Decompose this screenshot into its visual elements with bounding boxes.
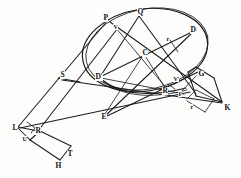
point-label-U: U bbox=[22, 136, 27, 142]
point-label-L: L bbox=[12, 124, 18, 132]
point-label-S: S bbox=[60, 71, 65, 79]
point-label-r-upper: r bbox=[166, 36, 169, 42]
lower-left-quadrilateral bbox=[18, 128, 71, 160]
point-label-K: K bbox=[224, 104, 230, 112]
point-label-T: T bbox=[67, 150, 73, 158]
point-label-D: D bbox=[190, 26, 196, 34]
point-label-E: E bbox=[101, 113, 107, 121]
point-label-C: C bbox=[142, 49, 148, 57]
point-label-r-lower: r bbox=[190, 104, 193, 110]
point-label-D-prime: D' bbox=[95, 73, 103, 81]
point-label-Q: Q bbox=[137, 8, 143, 16]
point-label-V: V bbox=[113, 24, 118, 30]
point-label-V-prime: V' bbox=[173, 76, 179, 82]
point-label-R-right: R bbox=[162, 87, 168, 95]
point-label-P: P bbox=[103, 14, 108, 22]
tick-marks bbox=[27, 84, 175, 133]
point-label-R-left: R bbox=[35, 127, 41, 135]
point-label-G: G bbox=[198, 70, 204, 78]
figure-canvas bbox=[0, 0, 241, 178]
point-label-F: F bbox=[178, 91, 182, 97]
geometry-figure: P V Q D r C S D' V' G R F r K E L R U T … bbox=[0, 0, 241, 178]
point-label-H: H bbox=[55, 162, 61, 170]
